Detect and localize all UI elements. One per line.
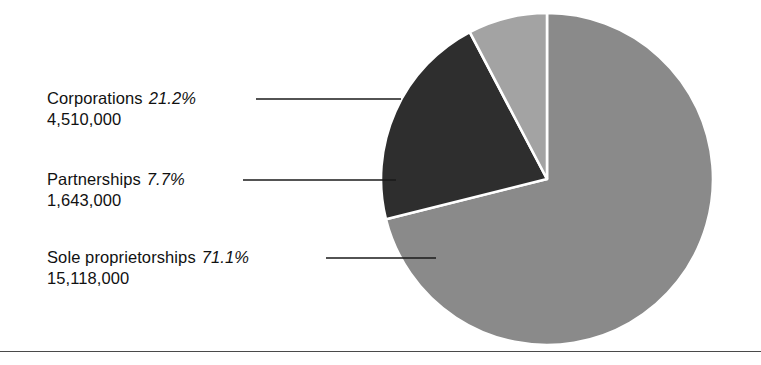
callout-sole-proprietorships-headline: Sole proprietorships71.1% <box>47 247 249 268</box>
callout-corporations-name: Corporations <box>47 89 143 107</box>
bottom-divider-rule <box>0 351 761 352</box>
callout-partnerships-name: Partnerships <box>47 170 141 188</box>
callout-corporations-value: 4,510,000 <box>47 109 196 130</box>
callout-corporations-percent: 21.2% <box>149 89 196 107</box>
callout-corporations-headline: Corporations21.2% <box>47 88 196 109</box>
callout-corporations: Corporations21.2% 4,510,000 <box>47 88 196 131</box>
callout-partnerships-percent: 7.7% <box>147 170 185 188</box>
callout-partnerships: Partnerships7.7% 1,643,000 <box>47 169 185 212</box>
callout-partnerships-value: 1,643,000 <box>47 190 185 211</box>
callout-sole-proprietorships-value: 15,118,000 <box>47 268 249 289</box>
pie-chart-figure: Corporations21.2% 4,510,000 Partnerships… <box>0 0 761 365</box>
callout-sole-proprietorships-name: Sole proprietorships <box>47 248 196 266</box>
callout-partnerships-headline: Partnerships7.7% <box>47 169 185 190</box>
callout-sole-proprietorships: Sole proprietorships71.1% 15,118,000 <box>47 247 249 290</box>
callout-sole-proprietorships-percent: 71.1% <box>202 248 249 266</box>
